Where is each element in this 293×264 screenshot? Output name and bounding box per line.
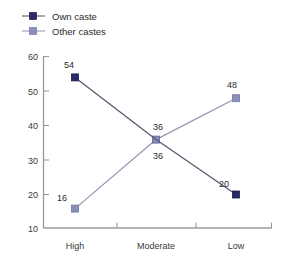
legend-marker-own-caste xyxy=(30,13,37,20)
data-label-other-castes-high: 16 xyxy=(57,193,67,203)
data-point-other-castes-low xyxy=(233,95,240,102)
y-tick-label-30: 30 xyxy=(28,156,38,166)
data-point-own-caste-low xyxy=(233,191,240,198)
y-tick-label-60: 60 xyxy=(28,52,38,62)
y-tick-label-10: 10 xyxy=(28,224,38,234)
y-tick-label-40: 40 xyxy=(28,121,38,131)
line-chart: Own caste Other castes xyxy=(0,0,293,264)
data-point-own-caste-high xyxy=(72,74,79,81)
chart-legend: Own caste Other castes xyxy=(22,11,106,37)
legend-marker-other-castes xyxy=(30,28,37,35)
data-point-labels: 54 36 20 16 36 48 xyxy=(57,60,237,203)
legend-item-other-castes: Other castes xyxy=(22,26,106,37)
x-label-high: High xyxy=(66,241,85,251)
legend-item-own-caste: Own caste xyxy=(22,11,97,22)
data-label-own-caste-low: 20 xyxy=(219,179,229,189)
data-label-other-castes-moderate: 36 xyxy=(153,151,163,161)
y-tick-label-20: 20 xyxy=(28,190,38,200)
y-axis-tick-labels: 60 50 40 30 20 10 xyxy=(28,52,38,234)
x-axis-category-labels: High Moderate Low xyxy=(66,241,245,251)
data-label-own-caste-moderate: 36 xyxy=(153,122,163,132)
x-label-low: Low xyxy=(228,241,245,251)
data-point-other-castes-high xyxy=(72,205,79,212)
x-label-moderate: Moderate xyxy=(137,241,175,251)
legend-label-other-castes: Other castes xyxy=(52,26,106,37)
data-label-other-castes-low: 48 xyxy=(227,80,237,90)
data-label-own-caste-high: 54 xyxy=(64,60,74,70)
y-tick-label-50: 50 xyxy=(28,87,38,97)
legend-label-own-caste: Own caste xyxy=(52,11,97,22)
